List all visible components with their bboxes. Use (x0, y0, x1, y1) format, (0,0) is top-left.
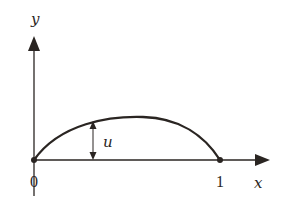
origin-tick-label: 0 (30, 173, 38, 190)
y-axis-arrowhead-icon (28, 36, 40, 51)
origin-point (31, 157, 37, 163)
end-point (217, 157, 223, 163)
diagram-canvas: y u 0 1 x (0, 0, 289, 208)
displacement-arrow-down-icon (90, 152, 97, 160)
displacement-label: u (103, 133, 113, 151)
arch-curve (34, 117, 220, 160)
y-axis-label: y (30, 10, 40, 28)
x-axis-arrowhead-icon (255, 154, 270, 166)
end-tick-label: 1 (216, 173, 224, 190)
x-axis-label: x (254, 174, 263, 192)
